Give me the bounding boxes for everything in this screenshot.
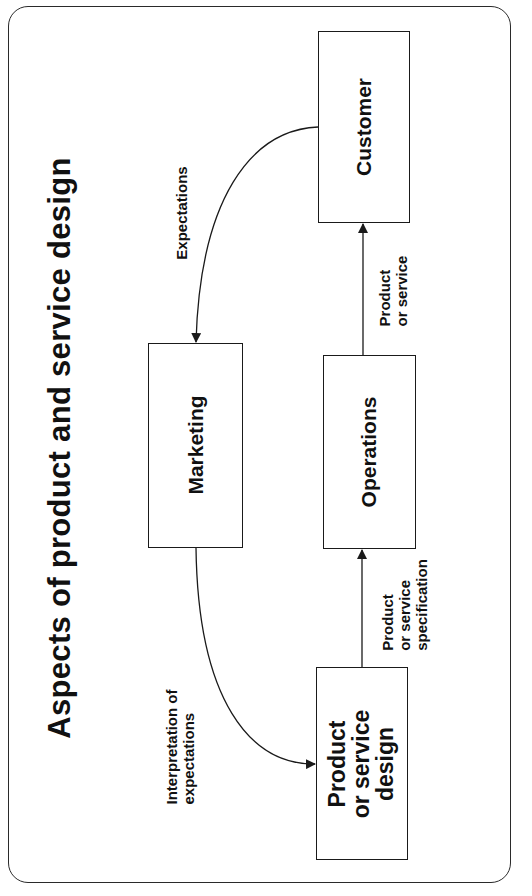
edge-customer-to-marketing — [196, 127, 318, 342]
edge-label-line: or service — [394, 256, 411, 327]
edge-label-interpretation: Interpretation of expectations — [164, 690, 198, 805]
diagram-title: Aspects of product and service design — [43, 157, 76, 738]
node-design-label-line: Product — [325, 710, 349, 819]
edge-label-line: or service — [397, 559, 414, 651]
node-customer-label: Customer — [353, 78, 376, 176]
edge-label-line: expectations — [181, 690, 198, 805]
node-design-label-line: or service — [349, 710, 373, 819]
edge-label-specification: Product or service specification — [380, 559, 430, 651]
edge-label-line: Product — [377, 256, 394, 327]
node-design-label: Product or service design — [325, 710, 397, 819]
edge-label-line: Interpretation of — [164, 690, 181, 805]
edge-label-line: specification — [413, 559, 430, 651]
edge-label-product-or-service: Product or service — [377, 256, 411, 327]
node-design-label-line: design — [373, 710, 397, 819]
edge-label-expectations: Expectations — [174, 166, 191, 259]
edge-label-line: Product — [380, 559, 397, 651]
connector-layer — [0, 0, 532, 896]
edge-marketing-to-design — [196, 548, 315, 764]
node-operations-label: Operations — [358, 397, 381, 508]
node-marketing-label: Marketing — [185, 395, 208, 494]
